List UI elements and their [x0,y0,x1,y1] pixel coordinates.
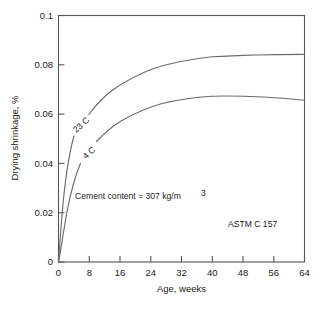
y-tick-label-0: 0 [48,256,53,267]
x-tick-label-0: 0 [56,267,61,278]
cement-content-superscript: 3 [201,188,206,198]
chart-figure: 0 0.02 0.04 0.06 0.08 0.1 0 8 16 24 32 4… [0,0,321,309]
x-tick-label-48: 48 [238,267,249,278]
standard-note-text: ASTM C 157 [228,219,277,229]
y-axis-title: Drying shrinkage, % [9,95,20,181]
x-tick-label-64: 64 [299,267,310,278]
y-tick-label-01: 0.1 [40,10,53,21]
x-tick-label-32: 32 [176,267,187,278]
x-tick-label-16: 16 [115,267,126,278]
x-tick-label-40: 40 [207,267,218,278]
y-tick-label-006: 0.06 [35,108,54,119]
chart-svg: 0 0.02 0.04 0.06 0.08 0.1 0 8 16 24 32 4… [0,0,321,309]
cement-content-text: Cement content = 307 kg/m [75,191,181,201]
y-tick-label-008: 0.08 [35,59,54,70]
x-tick-label-56: 56 [269,267,280,278]
y-tick-label-004: 0.04 [35,158,54,169]
x-tick-label-8: 8 [87,267,92,278]
x-axis-title: Age, weeks [157,283,206,294]
x-tick-label-24: 24 [146,267,157,278]
y-tick-label-002: 0.02 [35,207,54,218]
